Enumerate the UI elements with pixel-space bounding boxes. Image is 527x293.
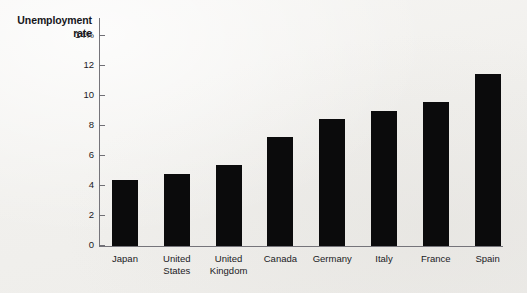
y-tick-10: 10: [99, 95, 105, 96]
y-tick-label-0: 0: [89, 239, 94, 250]
x-label-line: Spain: [451, 253, 525, 265]
bar-germany: [319, 119, 345, 247]
y-tick-4: 4: [99, 185, 105, 186]
x-label-line: Kingdom: [192, 265, 266, 277]
y-tick-label-2: 2: [89, 209, 94, 220]
chart-title-line-1: Unemployment: [0, 14, 92, 27]
y-axis-line: [99, 18, 100, 247]
y-tick-label-4: 4: [89, 179, 94, 190]
bar-spain: [475, 74, 501, 247]
plot-area: 02468101214%: [99, 18, 503, 247]
x-axis-line: [99, 246, 503, 247]
bar-united-kingdom: [216, 165, 242, 246]
y-tick-6: 6: [99, 155, 105, 156]
y-tick-label-8: 8: [89, 119, 94, 130]
y-tick-14: 14%: [99, 35, 105, 36]
bar-united-states: [164, 174, 190, 246]
y-tick-label-6: 6: [89, 149, 94, 160]
bar-canada: [267, 137, 293, 247]
bar-france: [423, 102, 449, 246]
y-tick-12: 12: [99, 65, 105, 66]
y-tick-0: 0: [99, 245, 105, 246]
y-tick-2: 2: [99, 215, 105, 216]
y-tick-label-10: 10: [83, 89, 94, 100]
y-tick-label-12: 12: [83, 59, 94, 70]
y-tick-label-14: 14%: [75, 29, 94, 40]
bar-japan: [112, 180, 138, 246]
y-tick-8: 8: [99, 125, 105, 126]
x-label-spain: Spain: [451, 253, 525, 265]
unemployment-rate-bar-chart: Unemployment rate 02468101214% JapanUnit…: [0, 0, 527, 293]
bar-italy: [371, 111, 397, 246]
